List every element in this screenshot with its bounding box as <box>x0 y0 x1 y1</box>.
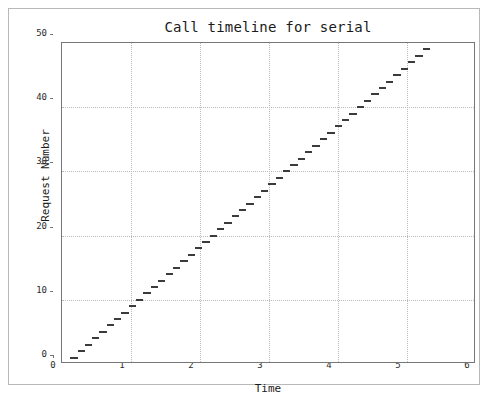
request-bar <box>246 203 254 205</box>
request-bar <box>357 106 364 108</box>
y-tick-mark <box>50 291 53 292</box>
y-tick-label: 20 <box>17 221 47 231</box>
request-bar <box>151 286 158 288</box>
request-bar <box>85 344 93 346</box>
request-bar <box>327 132 335 134</box>
y-tick-label: 40 <box>17 92 47 102</box>
request-bar <box>107 324 115 326</box>
y-tick-mark <box>50 98 53 99</box>
request-bar <box>78 350 85 352</box>
request-bar <box>379 87 386 89</box>
gridline-horizontal <box>62 171 474 172</box>
gridline-horizontal <box>62 107 474 108</box>
request-bar <box>320 138 327 140</box>
request-bar <box>188 254 196 256</box>
request-bar <box>312 145 320 147</box>
request-bar <box>298 158 305 160</box>
plot-area <box>61 42 475 363</box>
gridline-vertical <box>338 43 339 362</box>
request-bar <box>173 267 180 269</box>
request-bar <box>114 318 121 320</box>
request-bar <box>335 125 343 127</box>
request-bar <box>202 241 210 243</box>
x-axis-label: Time <box>61 382 475 395</box>
request-bar <box>305 151 313 153</box>
request-bar <box>276 177 283 179</box>
gridline-horizontal <box>62 236 474 237</box>
request-bar <box>393 74 401 76</box>
request-bar <box>239 209 246 211</box>
request-bar <box>99 331 107 333</box>
y-tick-mark <box>50 227 53 228</box>
request-bar <box>268 183 276 185</box>
gridline-vertical <box>407 43 408 362</box>
request-bar <box>136 299 144 301</box>
request-bar <box>386 81 394 83</box>
chart-title: Call timeline for serial <box>61 19 475 35</box>
request-bar <box>195 247 202 249</box>
request-bar <box>423 48 430 50</box>
request-bar <box>217 228 224 230</box>
figure-frame: Call timeline for serial Request Number … <box>8 8 480 385</box>
request-bar <box>210 235 218 237</box>
request-bar <box>129 305 136 307</box>
request-bar <box>261 190 269 192</box>
request-bar <box>92 337 99 339</box>
y-tick-label: 30 <box>17 156 47 166</box>
request-bar <box>408 61 416 63</box>
request-bar <box>70 357 78 359</box>
request-bar <box>224 222 232 224</box>
gridline-vertical <box>200 43 201 362</box>
y-tick-mark <box>50 162 53 163</box>
request-bar <box>232 215 240 217</box>
y-tick-label: 50 <box>17 28 47 38</box>
gridline-horizontal <box>62 300 474 301</box>
request-bar <box>290 164 298 166</box>
y-tick-mark <box>50 34 53 35</box>
request-bar <box>121 312 129 314</box>
x-tick-mark <box>53 355 54 358</box>
request-bar <box>180 260 188 262</box>
request-bar <box>371 93 379 95</box>
request-bar <box>143 292 151 294</box>
gridline-vertical <box>269 43 270 362</box>
y-axis-label: Request Number <box>39 96 52 256</box>
request-bar <box>166 273 174 275</box>
matplotlib-figure: Call timeline for serial Request Number … <box>0 0 489 400</box>
request-bar <box>401 68 408 70</box>
request-bar <box>415 55 423 57</box>
request-bar <box>254 196 261 198</box>
request-bar <box>349 113 357 115</box>
y-tick-label: 10 <box>17 285 47 295</box>
request-bar <box>364 100 372 102</box>
request-bar <box>158 280 166 282</box>
request-bar <box>342 119 349 121</box>
request-bar <box>283 170 291 172</box>
y-tick-label: 0 <box>17 349 47 359</box>
gridline-vertical <box>131 43 132 362</box>
